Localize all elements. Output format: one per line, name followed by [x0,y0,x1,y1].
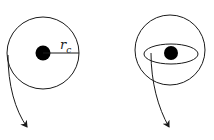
left-trajectory-arrow [8,55,27,127]
diagram: rc [0,0,214,140]
right-figure [135,15,205,127]
radius-label: rc [60,37,71,55]
left-figure: rc [7,17,79,127]
right-center-dot [164,46,178,60]
diagram-canvas: rc [0,0,214,140]
